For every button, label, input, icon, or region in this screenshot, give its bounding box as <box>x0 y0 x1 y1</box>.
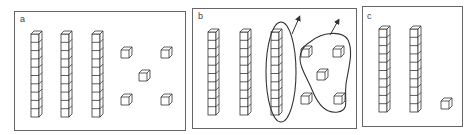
ten-rod <box>92 31 103 117</box>
unit-cube <box>161 47 172 58</box>
unit-cube <box>333 46 344 57</box>
unit-cube <box>161 94 172 105</box>
panel-b-label: b <box>198 11 203 21</box>
unit-cube <box>121 94 132 105</box>
unit-cube <box>441 98 452 109</box>
ten-rod <box>240 29 251 115</box>
unit-cube <box>139 70 150 81</box>
ten-rod <box>208 29 219 115</box>
panel-a-label: a <box>20 14 25 24</box>
unit-cube <box>334 93 345 104</box>
base-ten-blocks-diagram <box>0 0 476 135</box>
ten-rod <box>271 29 282 115</box>
unit-cube <box>301 46 312 57</box>
removal-arrow-rod <box>292 18 299 34</box>
unit-cube <box>317 69 328 80</box>
ten-rod <box>61 31 72 117</box>
panel-c-label: c <box>367 11 372 21</box>
unit-cube <box>121 47 132 58</box>
ten-rod <box>410 26 421 112</box>
unit-cube <box>301 93 312 104</box>
ten-rod <box>379 26 390 112</box>
ten-rod <box>31 31 42 117</box>
